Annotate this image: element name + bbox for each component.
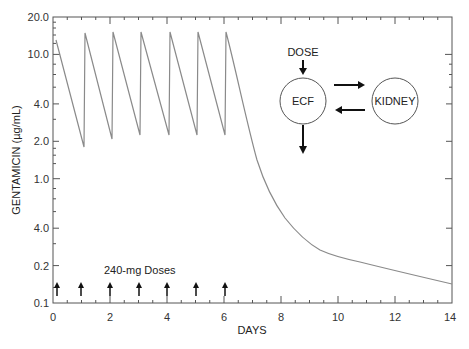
x-tick-label: 2 [107, 311, 113, 323]
arrow-down-icon [299, 60, 307, 75]
chart: 20.0 10.0 4.0 2.0 1.0 4.0 0.2 0.1 GENTAM… [0, 0, 469, 349]
doses-annotation: 240-mg Doses [104, 264, 176, 276]
arrow-up-icon [136, 282, 142, 296]
kidney-label: KIDNEY [375, 95, 417, 107]
y-tick-label: 0.1 [34, 297, 49, 309]
y-tick-label: 1.0 [34, 173, 49, 185]
arrow-up-icon [222, 282, 228, 296]
dose-arrows [54, 282, 228, 296]
x-tick-label: 14 [444, 311, 456, 323]
ecf-label: ECF [292, 95, 314, 107]
compartment-diagram: DOSE ECF KIDNEY [280, 46, 418, 154]
x-tick-label: 6 [221, 311, 227, 323]
y-tick-labels: 20.0 10.0 4.0 2.0 1.0 4.0 0.2 0.1 [28, 11, 49, 309]
y-tick-label: 4.0 [34, 222, 49, 234]
x-axis [67, 17, 438, 303]
arrow-right-icon [334, 81, 365, 89]
arrow-down-icon [299, 125, 307, 154]
arrow-up-icon [78, 282, 84, 296]
x-tick-label: 4 [164, 311, 170, 323]
y-tick-label: 2.0 [34, 135, 49, 147]
arrow-left-icon [335, 106, 365, 114]
y-tick-label: 20.0 [28, 11, 49, 23]
arrow-up-icon [164, 282, 170, 296]
x-axis-title: DAYS [237, 324, 266, 336]
x-tick-label: 8 [278, 311, 284, 323]
x-tick-label: 10 [332, 311, 344, 323]
dose-label: DOSE [287, 46, 318, 58]
y-axis-title: GENTAMICIN (µg/mL) [10, 105, 22, 214]
x-tick-label: 12 [389, 311, 401, 323]
arrow-up-icon [107, 282, 113, 296]
arrow-up-icon [54, 282, 60, 296]
x-tick-labels: 0 2 4 6 8 10 12 14 [50, 311, 456, 323]
arrow-up-icon [193, 282, 199, 296]
y-tick-label: 10.0 [28, 48, 49, 60]
x-tick-label: 0 [50, 311, 56, 323]
y-tick-label: 4.0 [34, 98, 49, 110]
y-tick-label: 0.2 [34, 260, 49, 272]
concentration-curve [56, 32, 452, 284]
